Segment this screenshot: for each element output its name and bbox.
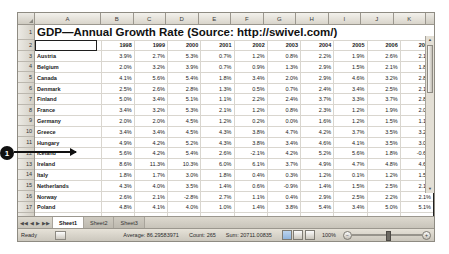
value-cell[interactable]: 3.2%: [367, 72, 400, 83]
value-cell[interactable]: 4.2%: [301, 126, 334, 137]
value-cell[interactable]: 2.2%: [234, 94, 267, 105]
value-cell[interactable]: 2.7%: [134, 51, 167, 62]
value-cell[interactable]: 1.2%: [334, 105, 367, 116]
value-cell[interactable]: 2.9%: [301, 72, 334, 83]
country-cell[interactable]: Ireland: [35, 159, 101, 170]
value-cell[interactable]: 0.7%: [201, 51, 234, 62]
value-cell[interactable]: 3.7%: [334, 126, 367, 137]
year-header-2006[interactable]: 2006: [367, 40, 400, 51]
value-cell[interactable]: 3.7%: [301, 94, 334, 105]
value-cell[interactable]: 0.8%: [267, 105, 300, 116]
sheet-tab-sheet2[interactable]: Sheet2: [84, 217, 114, 228]
value-cell[interactable]: 3.2%: [134, 105, 167, 116]
zoom-out-button[interactable]: −: [343, 231, 352, 240]
value-cell[interactable]: 2.1%: [201, 105, 234, 116]
value-cell[interactable]: 4.8%: [101, 202, 134, 213]
value-cell[interactable]: 1.3%: [201, 83, 234, 94]
column-header-D[interactable]: D: [166, 13, 199, 24]
value-cell[interactable]: 3.9%: [168, 62, 201, 73]
zoom-slider[interactable]: − +: [343, 231, 431, 240]
value-cell[interactable]: 3.5%: [367, 137, 400, 148]
value-cell[interactable]: 2.7%: [201, 191, 234, 202]
value-cell[interactable]: 5.4%: [168, 148, 201, 159]
value-cell[interactable]: 4.1%: [101, 72, 134, 83]
column-header-G[interactable]: G: [264, 13, 297, 24]
select-all-corner[interactable]: [18, 13, 35, 24]
value-cell[interactable]: 5.2%: [301, 148, 334, 159]
country-cell[interactable]: Iceland: [35, 148, 101, 159]
column-header-H[interactable]: H: [296, 13, 329, 24]
value-cell[interactable]: 1.9%: [334, 51, 367, 62]
column-header-F[interactable]: F: [231, 13, 264, 24]
value-cell[interactable]: 4.0%: [168, 202, 201, 213]
value-cell[interactable]: 1.2%: [367, 170, 400, 181]
country-cell[interactable]: Portugal: [35, 213, 101, 216]
tab-nav-next-icon[interactable]: ▶: [36, 220, 40, 226]
value-cell[interactable]: 2.0%: [101, 116, 134, 127]
row-header-9[interactable]: 9: [18, 116, 34, 127]
value-cell[interactable]: 1.2%: [201, 116, 234, 127]
value-cell[interactable]: 1.5%: [334, 180, 367, 191]
value-cell[interactable]: 2.2%: [367, 191, 400, 202]
value-cell[interactable]: 1.0%: [201, 202, 234, 213]
value-cell[interactable]: 1.9%: [367, 105, 400, 116]
value-cell[interactable]: 2.0%: [101, 62, 134, 73]
value-cell[interactable]: 1.4%: [234, 202, 267, 213]
value-cell[interactable]: 3.2%: [134, 62, 167, 73]
value-cell[interactable]: 4.7%: [267, 126, 300, 137]
value-cell[interactable]: 0.4%: [267, 191, 300, 202]
value-cell[interactable]: 3.5%: [168, 180, 201, 191]
value-cell[interactable]: 3.9%: [101, 51, 134, 62]
value-cell[interactable]: 3.4%: [334, 202, 367, 213]
value-cell[interactable]: 4.2%: [267, 148, 300, 159]
country-cell[interactable]: Poland: [35, 202, 101, 213]
value-cell[interactable]: 1.4%: [400, 213, 433, 216]
value-cell[interactable]: 1.2%: [301, 170, 334, 181]
value-cell[interactable]: 0.0%: [267, 116, 300, 127]
value-cell[interactable]: 1.6%: [301, 116, 334, 127]
zoom-in-button[interactable]: +: [422, 231, 431, 240]
value-cell[interactable]: 4.0%: [134, 180, 167, 191]
value-cell[interactable]: 2.6%: [101, 191, 134, 202]
country-cell[interactable]: Netherlands: [35, 180, 101, 191]
value-cell[interactable]: 1.8%: [367, 148, 400, 159]
value-cell[interactable]: 1.1%: [201, 94, 234, 105]
row-header-1[interactable]: 1: [18, 25, 34, 40]
value-cell[interactable]: 4.3%: [201, 137, 234, 148]
value-cell[interactable]: 3.0%: [168, 170, 201, 181]
value-cell[interactable]: 4.6%: [101, 213, 134, 216]
value-cell[interactable]: 5.1%: [400, 202, 433, 213]
country-cell[interactable]: Austria: [35, 51, 101, 62]
value-cell[interactable]: 3.4%: [134, 126, 167, 137]
value-cell[interactable]: -2.1%: [234, 148, 267, 159]
value-cell[interactable]: 0.9%: [234, 62, 267, 73]
value-cell[interactable]: 5.4%: [301, 202, 334, 213]
country-cell[interactable]: Norway: [35, 191, 101, 202]
value-cell[interactable]: 5.3%: [168, 105, 201, 116]
value-cell[interactable]: 2.0%: [267, 72, 300, 83]
country-cell[interactable]: France: [35, 105, 101, 116]
value-cell[interactable]: 4.1%: [134, 202, 167, 213]
value-cell[interactable]: 4.9%: [101, 137, 134, 148]
value-cell[interactable]: 4.6%: [301, 137, 334, 148]
value-cell[interactable]: 2.8%: [168, 83, 201, 94]
row-header-10[interactable]: 10: [18, 126, 34, 137]
value-cell[interactable]: 3.4%: [234, 72, 267, 83]
column-header-A[interactable]: A: [35, 13, 101, 24]
value-cell[interactable]: 1.2%: [334, 116, 367, 127]
vertical-scrollbar[interactable]: ▲ ▼: [425, 36, 434, 193]
value-cell[interactable]: 3.7%: [367, 94, 400, 105]
value-cell[interactable]: 2.6%: [134, 83, 167, 94]
country-cell[interactable]: Belgium: [35, 62, 101, 73]
value-cell[interactable]: 1.7%: [201, 213, 234, 216]
value-cell[interactable]: 2.4%: [301, 83, 334, 94]
value-cell[interactable]: 0.7%: [267, 83, 300, 94]
value-cell[interactable]: 5.1%: [168, 94, 201, 105]
row-header-8[interactable]: 8: [18, 105, 34, 116]
value-cell[interactable]: 2.3%: [301, 105, 334, 116]
value-cell[interactable]: 1.7%: [134, 170, 167, 181]
value-cell[interactable]: 3.7%: [267, 159, 300, 170]
value-cell[interactable]: 0.1%: [334, 170, 367, 181]
value-cell[interactable]: 0.3%: [267, 170, 300, 181]
value-cell[interactable]: 3.4%: [134, 94, 167, 105]
